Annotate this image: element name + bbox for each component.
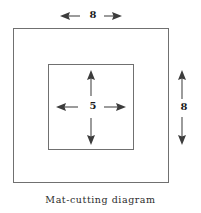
right-dimension-label: 8: [174, 102, 194, 112]
figure-caption: Mat-cutting diagram: [0, 194, 201, 205]
center-dimension-label: 5: [82, 101, 104, 111]
top-dimension-label: 8: [82, 10, 104, 20]
mat-cutting-figure: 8 8 5 Mat-cutting diagram: [0, 0, 201, 213]
